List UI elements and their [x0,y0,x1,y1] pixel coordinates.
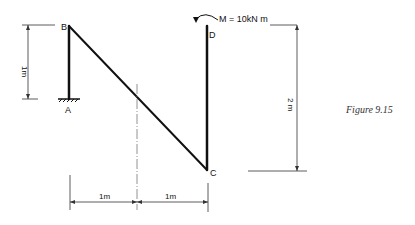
dimension-bottom [70,175,208,212]
node-label-B: B [61,22,67,32]
fixed-support-icon [58,99,80,102]
frame-diagram: B A C D M = 10kN m 1m 2 m 1m 1m Figu [0,0,415,225]
node-label-A: A [65,105,71,115]
figure-caption: Figure 9.15 [345,104,393,115]
dimension-label-left-height: 1m [20,66,29,77]
frame-members [69,26,207,170]
node-label-C: C [210,168,217,178]
node-label-D: D [209,30,216,40]
moment-label: M = 10kN m [219,14,268,24]
moment-arrow-icon [193,15,218,23]
dimension-left-height [22,25,55,99]
dimension-right-height [248,25,307,171]
dimension-label-bottom-right: 1m [165,192,176,201]
dimension-label-bottom-left: 1m [99,192,110,201]
member-BC [69,26,207,170]
dimension-label-right-height: 2 m [286,98,295,112]
